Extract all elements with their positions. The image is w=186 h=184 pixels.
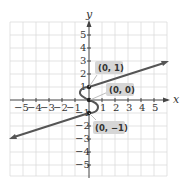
y-tick-label: −2 — [75, 120, 90, 131]
x-axis-label: x — [173, 93, 180, 106]
point-label-0-1: (0, 1) — [98, 63, 124, 73]
y-axis-label: y — [85, 8, 93, 21]
y-tick-label: 2 — [80, 68, 86, 79]
y-tick-label: −4 — [75, 146, 90, 157]
x-tick-label: 3 — [126, 102, 132, 113]
y-tick-label: 5 — [80, 29, 86, 40]
point-label-0-0: (0, 0) — [109, 85, 135, 95]
x-tick-label: 4 — [139, 102, 145, 113]
x-axis-arrow-icon — [163, 98, 170, 103]
x-tick-label: 1 — [100, 102, 106, 113]
y-tick-label: 4 — [80, 42, 86, 53]
x-tick-label: 2 — [113, 102, 119, 113]
coordinate-graph: y x −5 −4 −3 −2 −1 1 2 3 4 5 5 4 3 2 1 −… — [0, 0, 186, 184]
y-tick-label: −5 — [75, 159, 90, 170]
y-axis-arrow-icon — [87, 20, 92, 27]
y-tick-label: 3 — [80, 55, 86, 66]
point-label-0-neg1: (0, −1) — [95, 123, 128, 133]
x-tick-label: 5 — [152, 102, 158, 113]
y-tick-label: −3 — [75, 133, 90, 144]
arrow-right-icon — [161, 61, 169, 66]
